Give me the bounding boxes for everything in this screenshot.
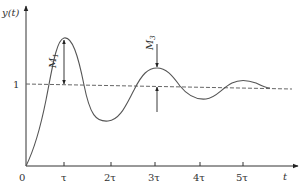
steady-state-dashed-line <box>26 84 292 89</box>
response-curve <box>26 38 270 166</box>
x-tick-5tau: 5τ <box>236 172 248 183</box>
origin-label: 0 <box>19 172 25 183</box>
x-ticks <box>64 162 243 166</box>
y-tick-1-label: 1 <box>13 79 19 90</box>
step-response-chart: y(t) t 0 1 τ 2τ 3τ 4τ 5τ M1 M3 <box>0 0 302 189</box>
x-axis-label: t <box>283 171 288 182</box>
x-tick-4tau: 4τ <box>193 172 205 183</box>
svg-text:M1: M1 <box>47 53 60 69</box>
m1-label: M1 <box>47 53 60 69</box>
y-axis-label: y(t) <box>1 7 20 18</box>
x-tick-tau: τ <box>61 172 67 183</box>
svg-text:M3: M3 <box>144 35 157 51</box>
x-tick-2tau: 2τ <box>104 172 116 183</box>
m3-label: M3 <box>144 35 157 51</box>
x-tick-3tau: 3τ <box>148 172 160 183</box>
